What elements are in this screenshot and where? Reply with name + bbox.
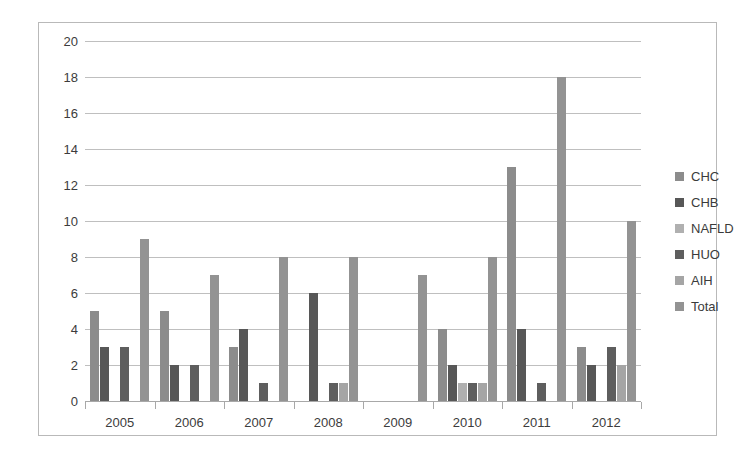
y-axis-tick-label: 12 — [64, 178, 78, 193]
bar-huo-2008[interactable] — [329, 383, 338, 401]
bar-group-bars — [224, 41, 294, 401]
bar-slot-nafld — [597, 41, 606, 401]
bar-slot-nafld — [180, 41, 189, 401]
bar-group-bars — [294, 41, 364, 401]
bar-group-bars — [155, 41, 225, 401]
bar-huo-2007[interactable] — [259, 383, 268, 401]
bar-chb-2010[interactable] — [448, 365, 457, 401]
bar-slot-aih — [617, 41, 626, 401]
bar-group-2008: 2008 — [294, 41, 364, 401]
bar-huo-2006[interactable] — [190, 365, 199, 401]
bar-huo-2005[interactable] — [120, 347, 129, 401]
bar-total-2012[interactable] — [627, 221, 636, 401]
legend-item-huo[interactable]: HUO — [675, 241, 754, 267]
bar-huo-2011[interactable] — [537, 383, 546, 401]
bar-slot-chc — [229, 41, 238, 401]
legend-swatch-icon — [675, 302, 684, 311]
chart-container: 02468101214161820 2005200620072008200920… — [38, 22, 717, 436]
bar-slot-chb — [170, 41, 179, 401]
legend-item-chc[interactable]: CHC — [675, 163, 754, 189]
bar-group-2006: 2006 — [155, 41, 225, 401]
bar-group-2012: 2012 — [572, 41, 642, 401]
bar-slot-total — [418, 41, 427, 401]
bar-slot-total — [557, 41, 566, 401]
bar-total-2005[interactable] — [140, 239, 149, 401]
y-axis-tick-label: 6 — [71, 286, 78, 301]
legend-swatch-icon — [675, 224, 684, 233]
chart-legend: CHCCHBNAFLDHUOAIHTotal — [675, 163, 754, 319]
bar-group-bars — [363, 41, 433, 401]
y-axis-tick-label: 8 — [71, 250, 78, 265]
legend-item-nafld[interactable]: NAFLD — [675, 215, 754, 241]
y-axis-tick-label: 4 — [71, 322, 78, 337]
y-axis-tick-label: 14 — [64, 142, 78, 157]
legend-item-chb[interactable]: CHB — [675, 189, 754, 215]
bar-chc-2012[interactable] — [577, 347, 586, 401]
bar-huo-2010[interactable] — [468, 383, 477, 401]
bar-aih-2010[interactable] — [478, 383, 487, 401]
x-axis-label-2005: 2005 — [105, 415, 134, 430]
bar-slot-total — [349, 41, 358, 401]
bar-slot-nafld — [458, 41, 467, 401]
bar-total-2009[interactable] — [418, 275, 427, 401]
bar-chb-2005[interactable] — [100, 347, 109, 401]
x-axis-tick — [433, 402, 434, 409]
x-axis-tick — [294, 402, 295, 409]
x-axis-label-2006: 2006 — [175, 415, 204, 430]
bar-huo-2012[interactable] — [607, 347, 616, 401]
bar-slot-nafld — [110, 41, 119, 401]
legend-item-aih[interactable]: AIH — [675, 267, 754, 293]
bar-slot-chc — [507, 41, 516, 401]
bar-slot-nafld — [527, 41, 536, 401]
x-axis-label-2011: 2011 — [523, 415, 551, 430]
bar-group-bars — [85, 41, 155, 401]
bar-slot-chb — [517, 41, 526, 401]
plot-area: 02468101214161820 2005200620072008200920… — [85, 41, 641, 401]
bar-group-2010: 2010 — [433, 41, 503, 401]
legend-item-total[interactable]: Total — [675, 293, 754, 319]
bar-slot-aih — [408, 41, 417, 401]
bar-chb-2006[interactable] — [170, 365, 179, 401]
legend-label: NAFLD — [691, 221, 734, 236]
bar-chb-2008[interactable] — [309, 293, 318, 401]
bar-chc-2010[interactable] — [438, 329, 447, 401]
bar-chc-2007[interactable] — [229, 347, 238, 401]
bar-slot-total — [627, 41, 636, 401]
legend-label: CHB — [691, 195, 718, 210]
bar-chc-2006[interactable] — [160, 311, 169, 401]
bar-chc-2011[interactable] — [507, 167, 516, 401]
y-axis-tick-label: 10 — [64, 214, 78, 229]
bar-slot-total — [210, 41, 219, 401]
bar-chb-2012[interactable] — [587, 365, 596, 401]
bar-group-bars — [502, 41, 572, 401]
y-axis-tick-label: 2 — [71, 358, 78, 373]
bar-slot-aih — [200, 41, 209, 401]
bar-slot-total — [279, 41, 288, 401]
bar-slot-aih — [478, 41, 487, 401]
bar-aih-2008[interactable] — [339, 383, 348, 401]
bar-slot-chb — [587, 41, 596, 401]
bar-total-2008[interactable] — [349, 257, 358, 401]
bar-slot-chb — [309, 41, 318, 401]
bar-chb-2011[interactable] — [517, 329, 526, 401]
bar-group-2005: 2005 — [85, 41, 155, 401]
bar-slot-chb — [239, 41, 248, 401]
x-axis-label-2007: 2007 — [244, 415, 273, 430]
bar-slot-aih — [547, 41, 556, 401]
bar-slot-total — [140, 41, 149, 401]
bar-total-2007[interactable] — [279, 257, 288, 401]
bar-total-2010[interactable] — [488, 257, 497, 401]
bar-chc-2005[interactable] — [90, 311, 99, 401]
bar-slot-chb — [378, 41, 387, 401]
bar-nafld-2010[interactable] — [458, 383, 467, 401]
x-axis-tick — [155, 402, 156, 409]
bar-slot-huo — [398, 41, 407, 401]
bar-chb-2007[interactable] — [239, 329, 248, 401]
y-axis-tick-label: 0 — [71, 394, 78, 409]
bar-aih-2012[interactable] — [617, 365, 626, 401]
bar-total-2011[interactable] — [557, 77, 566, 401]
bar-slot-chc — [438, 41, 447, 401]
x-axis-label-2010: 2010 — [453, 415, 482, 430]
bar-total-2006[interactable] — [210, 275, 219, 401]
bar-slot-nafld — [249, 41, 258, 401]
